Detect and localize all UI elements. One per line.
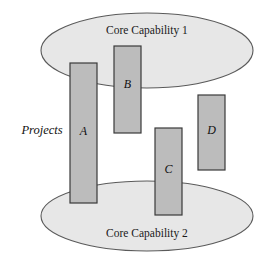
- project-rect-b-label: B: [124, 77, 132, 91]
- diagram-canvas: Core Capability 1 Core Capability 2 A B …: [0, 0, 273, 262]
- capability-projects-diagram: Core Capability 1 Core Capability 2 A B …: [0, 0, 273, 262]
- ellipse-core-capability-1-label: Core Capability 1: [106, 24, 188, 37]
- project-rect-d: D: [198, 95, 225, 170]
- ellipse-core-capability-2-label: Core Capability 2: [106, 227, 188, 240]
- project-rect-c-label: C: [164, 162, 173, 176]
- project-rect-a-label: A: [79, 124, 88, 138]
- project-rect-d-label: D: [206, 123, 216, 137]
- project-rect-a: A: [70, 63, 97, 203]
- project-rect-c: C: [155, 128, 182, 215]
- project-rect-b: B: [114, 46, 141, 133]
- projects-axis-label: Projects: [20, 123, 62, 137]
